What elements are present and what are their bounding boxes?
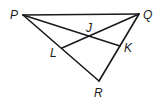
label-l: L [50, 46, 57, 60]
label-k: K [124, 41, 133, 55]
label-r: R [94, 86, 103, 100]
label-q: Q [143, 8, 152, 22]
segment-pk [23, 15, 120, 46]
segment-qr [99, 14, 139, 81]
label-p: P [10, 8, 18, 22]
triangle-diagram: P Q R L K J [0, 0, 161, 105]
segment-pq [23, 14, 139, 15]
label-j: J [85, 21, 93, 35]
